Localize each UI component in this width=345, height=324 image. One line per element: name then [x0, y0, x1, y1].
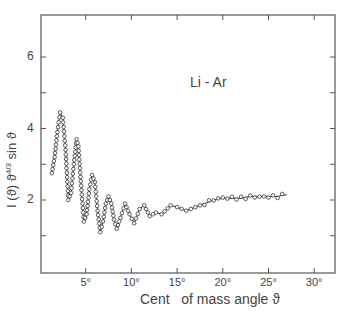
x-tick-label: 25° — [260, 276, 277, 288]
plot-frame — [41, 15, 335, 273]
y-axis-label: I (ϑ) ϑ4/3 sin ϑ — [4, 110, 20, 230]
x-tick-label: 10° — [123, 276, 140, 288]
x-tick-label: 5° — [80, 276, 91, 288]
y-tick-label: 2 — [27, 192, 34, 206]
y-tick-label: 6 — [27, 49, 34, 63]
x-axis-label: Cent of mass angle ϑ — [140, 291, 280, 307]
data-markers — [50, 111, 284, 234]
axis-ticks — [41, 15, 335, 273]
system-annotation: Li - Ar — [190, 74, 227, 90]
y-tick-label: 4 — [27, 121, 34, 135]
x-tick-label: 20° — [214, 276, 231, 288]
x-tick-label: 30° — [306, 276, 323, 288]
x-tick-label: 15° — [169, 276, 186, 288]
